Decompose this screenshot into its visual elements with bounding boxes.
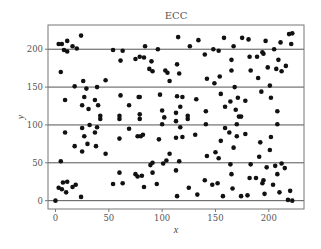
data-point [196, 38, 201, 43]
data-point [127, 126, 132, 131]
data-point [149, 59, 154, 64]
data-point [277, 190, 282, 195]
data-point [93, 130, 98, 135]
y-tick-label: 200 [27, 44, 43, 54]
data-point [86, 107, 91, 112]
data-point [247, 55, 252, 60]
data-point [211, 47, 216, 52]
data-point [142, 185, 147, 190]
data-point [158, 92, 163, 97]
data-point [180, 135, 185, 140]
data-point [65, 49, 70, 54]
data-point [98, 117, 103, 122]
data-point [177, 71, 182, 76]
data-point [255, 55, 260, 60]
data-point [93, 98, 98, 103]
data-point [127, 103, 132, 108]
data-point [236, 95, 241, 100]
y-axis-label: y [15, 114, 26, 120]
data-point [82, 95, 87, 100]
data-point [279, 161, 284, 166]
data-point [221, 194, 226, 199]
data-point [228, 162, 233, 167]
data-point [150, 161, 155, 166]
data-point [117, 170, 122, 175]
scatter-chart: ECC 050100150200 050100150200 x y [0, 0, 321, 249]
data-point [160, 108, 165, 113]
data-point [167, 79, 172, 84]
data-point [233, 108, 238, 113]
data-point [290, 198, 295, 203]
data-point [246, 37, 251, 42]
data-point [278, 40, 283, 45]
data-point [73, 182, 78, 187]
data-point [227, 130, 232, 135]
x-tick-label: 100 [154, 213, 170, 223]
data-point [61, 180, 66, 185]
data-point [239, 194, 244, 199]
data-point [137, 117, 142, 122]
data-point [82, 134, 87, 139]
data-point [274, 67, 279, 72]
data-points [53, 31, 294, 203]
data-point [178, 125, 183, 130]
data-point [232, 85, 237, 90]
chart-title: ECC [165, 10, 188, 21]
data-point [231, 44, 236, 49]
data-point [137, 112, 142, 117]
data-point [229, 58, 234, 63]
data-point [256, 76, 261, 81]
data-point [219, 139, 224, 144]
data-point [59, 70, 64, 75]
y-tick-label: 50 [32, 158, 43, 168]
data-point [279, 69, 284, 74]
data-point [111, 182, 116, 187]
data-point [203, 178, 208, 183]
data-point [79, 33, 84, 38]
data-point [240, 36, 245, 41]
data-point [180, 95, 185, 100]
data-point [141, 132, 146, 137]
data-point [85, 142, 90, 147]
data-point [243, 98, 248, 103]
data-point [142, 55, 147, 60]
data-point [164, 158, 169, 163]
data-point [63, 130, 68, 135]
y-tick-label: 150 [27, 82, 43, 92]
data-point [212, 81, 217, 86]
data-point [174, 111, 179, 116]
data-point [210, 182, 215, 187]
data-point [120, 181, 125, 186]
data-point [79, 195, 84, 200]
x-tick-label: 0 [53, 213, 58, 223]
data-point [222, 36, 227, 41]
data-point [283, 166, 288, 171]
data-point [174, 119, 179, 124]
data-point [75, 46, 80, 51]
data-point [95, 125, 100, 130]
data-point [188, 44, 193, 49]
data-point [96, 103, 101, 108]
data-point [53, 198, 58, 203]
data-point [235, 122, 240, 127]
data-point [259, 89, 264, 94]
data-point [247, 176, 252, 181]
data-point [275, 109, 280, 114]
data-point [261, 178, 266, 183]
data-point [231, 145, 236, 150]
data-point [118, 58, 123, 63]
data-point [72, 84, 77, 89]
data-point [213, 150, 218, 155]
data-point [155, 182, 160, 187]
data-point [254, 176, 259, 181]
data-point [275, 172, 280, 177]
data-point [193, 132, 198, 137]
data-point [268, 148, 273, 153]
data-point [230, 186, 235, 191]
data-point [215, 181, 220, 186]
data-point [229, 172, 234, 177]
plot-frame [48, 25, 304, 209]
data-point [261, 51, 266, 56]
data-point [243, 132, 248, 137]
data-point [223, 126, 228, 131]
